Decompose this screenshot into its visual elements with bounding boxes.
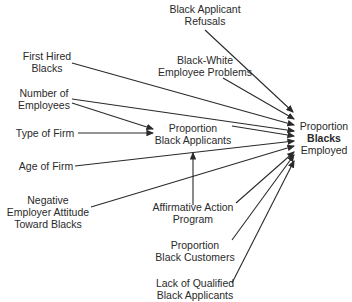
node-black-applicant-refusals: Black Applicant Refusals: [150, 3, 260, 27]
node-proportion-black-customers: Proportion Black Customers: [152, 239, 238, 263]
edge-mediator-target: [232, 126, 294, 136]
node-lack-of-qualified-applicants: Lack of Qualified Black Applicants: [152, 277, 238, 301]
node-proportion-blacks-employed: Proportion Blacks Employed: [296, 120, 352, 156]
node-first-hired-blacks: First Hired Blacks: [12, 50, 82, 74]
node-affirmative-action-program: Affirmative Action Program: [148, 201, 238, 225]
node-bw-employee-problems: Black-White Employee Problems: [150, 54, 260, 78]
node-proportion-black-applicants: Proportion Black Applicants: [150, 122, 236, 146]
edge-employees-mediator: [72, 103, 153, 129]
node-negative-employer-attitude: Negative Employer Attitude Toward Blacks: [4, 194, 92, 230]
edge-bw-problems: [223, 78, 294, 119]
node-age-of-firm: Age of Firm: [18, 160, 74, 172]
edge-customers: [232, 155, 294, 240]
node-type-of-firm: Type of Firm: [12, 127, 78, 139]
node-number-of-employees: Number of Employees: [13, 87, 75, 111]
